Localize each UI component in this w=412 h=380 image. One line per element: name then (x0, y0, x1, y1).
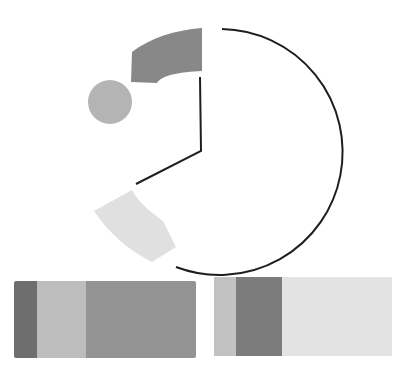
left-bar-segment-dark (14, 281, 37, 358)
right-bar-segment-light (214, 277, 236, 356)
left-bar-segment-light (37, 281, 86, 358)
right-bar-segment-dark (236, 277, 282, 356)
dark-wedge (131, 28, 202, 83)
right-bar-segment-very-light (282, 277, 392, 356)
right-stacked-bar (214, 277, 392, 356)
light-wedge (94, 190, 176, 262)
left-stacked-bar (14, 281, 196, 358)
detached-circle (88, 80, 132, 124)
left-bar-segment-medium (86, 281, 196, 358)
pie-divider-lines (136, 77, 201, 184)
